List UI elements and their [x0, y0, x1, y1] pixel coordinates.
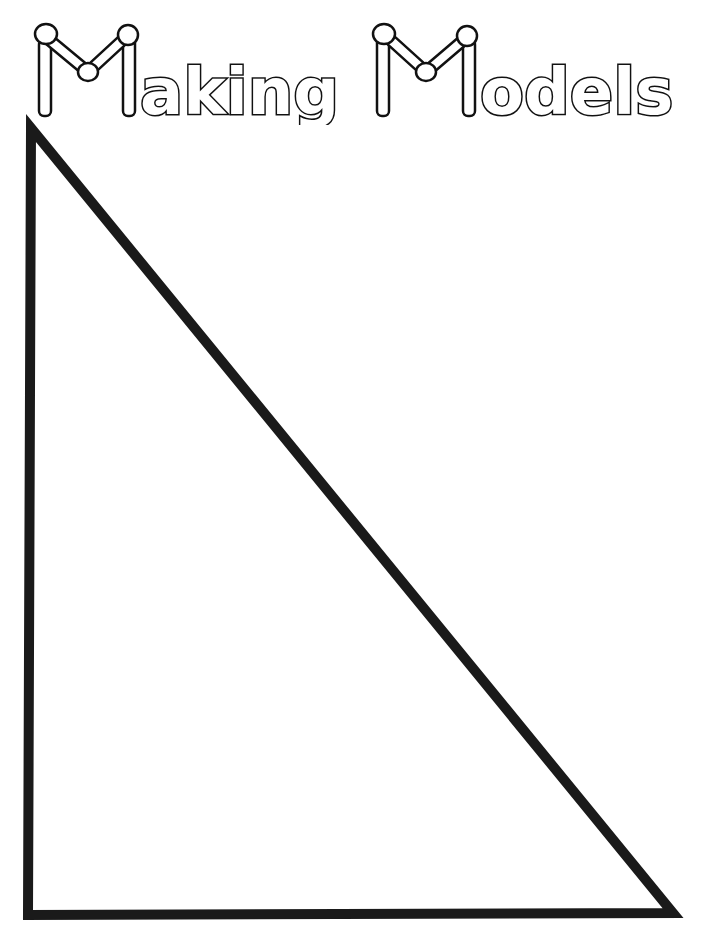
right-triangle-outline [28, 128, 673, 915]
worksheet-canvas [0, 0, 713, 936]
